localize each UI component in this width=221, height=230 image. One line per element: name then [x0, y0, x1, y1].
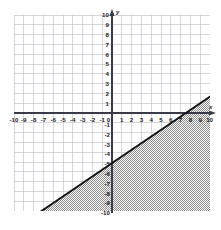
- y-tick-7: 7: [106, 41, 110, 48]
- y-tick-5: 5: [106, 60, 110, 67]
- y-tick--7: -7: [104, 180, 110, 187]
- y-tick--6: -6: [104, 170, 110, 177]
- y-tick--5: -5: [104, 160, 110, 167]
- y-tick-3: 3: [106, 80, 110, 87]
- x-tick--4: -4: [70, 116, 76, 123]
- y-tick--1: -1: [104, 121, 110, 128]
- x-tick-1: 1: [120, 116, 124, 123]
- x-tick--7: -7: [41, 116, 47, 123]
- y-tick--8: -8: [104, 190, 110, 197]
- y-tick--10: -10: [101, 209, 111, 216]
- x-tick--6: -6: [50, 116, 56, 123]
- x-tick-8: 8: [189, 116, 193, 123]
- x-tick-3: 3: [140, 116, 144, 123]
- x-tick--10: -10: [10, 116, 20, 123]
- x-tick-7: 7: [179, 116, 183, 123]
- y-tick-2: 2: [106, 90, 110, 97]
- y-tick--9: -9: [104, 199, 110, 206]
- x-tick--9: -9: [21, 116, 27, 123]
- y-tick--2: -2: [104, 131, 110, 138]
- coordinate-graph: -10 -9 -8 -7 -6 -5 -4 -3 -2 -1 0 1 2 3 4…: [0, 0, 221, 230]
- x-tick-4: 4: [149, 116, 153, 123]
- y-tick-4: 4: [106, 70, 110, 77]
- x-tick-10: 10: [206, 116, 213, 123]
- x-tick--3: -3: [80, 116, 86, 123]
- graph-canvas: -10 -9 -8 -7 -6 -5 -4 -3 -2 -1 0 1 2 3 4…: [0, 0, 221, 230]
- x-tick--5: -5: [60, 116, 66, 123]
- y-tick-8: 8: [106, 31, 110, 38]
- y-axis-arrow-icon: [109, 9, 114, 16]
- x-tick-5: 5: [159, 116, 163, 123]
- y-tick-9: 9: [106, 21, 110, 28]
- y-tick--3: -3: [104, 141, 110, 148]
- x-tick--2: -2: [90, 116, 96, 123]
- x-tick-2: 2: [130, 116, 134, 123]
- x-tick--8: -8: [31, 116, 37, 123]
- x-axis-label: x: [208, 104, 213, 110]
- y-axis-label: y: [115, 9, 120, 15]
- x-tick-9: 9: [198, 116, 202, 123]
- y-tick-1: 1: [106, 100, 110, 107]
- y-tick--4: -4: [104, 150, 110, 157]
- x-tick-6: 6: [169, 116, 173, 123]
- y-tick-10: 10: [102, 11, 109, 18]
- y-tick-6: 6: [106, 51, 110, 58]
